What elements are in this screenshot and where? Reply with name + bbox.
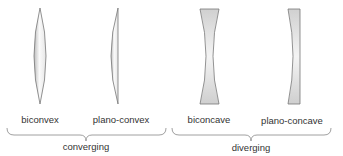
converging-brace	[7, 128, 166, 141]
plano-concave-label: plano-concave	[261, 116, 323, 126]
plano-convex-lens-shape	[111, 8, 118, 104]
plano-concave-lens-shape	[288, 9, 300, 104]
biconvex-label: biconvex	[21, 115, 59, 125]
biconcave-lens-shape	[200, 9, 219, 104]
lens-diagram	[0, 0, 343, 156]
diverging-label: diverging	[232, 143, 271, 153]
converging-label: converging	[63, 142, 109, 152]
diverging-brace	[172, 128, 331, 141]
biconvex-lens-shape	[34, 8, 46, 104]
plano-convex-label: plano-convex	[93, 115, 150, 125]
biconcave-label: biconcave	[188, 115, 231, 125]
